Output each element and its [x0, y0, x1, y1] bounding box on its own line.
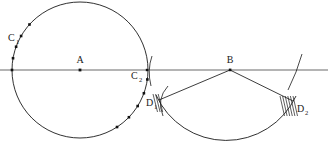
label-c2-subscript: 2 — [139, 76, 142, 83]
arc-dot-lower-3 — [128, 116, 131, 119]
arc-dot-lower-1 — [143, 92, 146, 95]
label-d2-subscript: 2 — [305, 109, 308, 116]
arc-dot-upper-0 — [11, 69, 14, 72]
label-b: B — [227, 54, 234, 65]
diagram-canvas: C 1 A C 2 D 1 B D 2 — [0, 0, 328, 151]
label-a: A — [76, 54, 84, 65]
point-marker-b — [229, 69, 232, 72]
label-a-base: A — [76, 54, 84, 65]
arc-dot-upper-3 — [20, 35, 23, 38]
label-d1-base: D — [146, 97, 153, 108]
label-d1-subscript: 1 — [154, 103, 157, 110]
arc-dot-upper-2 — [15, 45, 18, 48]
canvas-background — [0, 0, 328, 151]
arc-dot-lower-0 — [146, 78, 149, 81]
geometric-diagram: C 1 A C 2 D 1 B D 2 — [0, 0, 328, 151]
label-d2-base: D — [297, 103, 304, 114]
arc-dot-lower-4 — [116, 126, 119, 129]
point-marker-c2 — [146, 69, 148, 71]
point-marker-a — [79, 69, 82, 72]
arc-dot-upper-1 — [12, 57, 15, 60]
label-b-base: B — [227, 54, 234, 65]
label-c2-base: C — [131, 70, 138, 81]
arc-dot-upper-4 — [28, 23, 31, 26]
label-c1-subscript: 1 — [16, 38, 19, 45]
label-c1-base: C — [8, 32, 15, 43]
arc-dot-lower-2 — [136, 105, 139, 108]
